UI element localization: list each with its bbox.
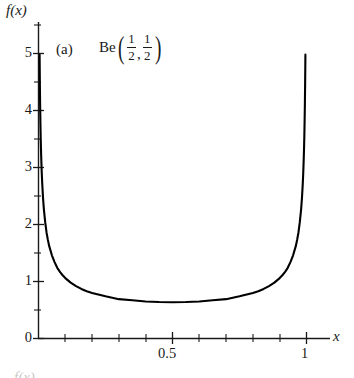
paren-close-glyph: ) (155, 35, 161, 60)
fraction-one-half-second: 1 2 (143, 32, 152, 63)
y-tick-label-0: 0 (12, 330, 32, 345)
y-tick-label-5: 5 (12, 45, 32, 60)
data-series-curve (40, 55, 306, 303)
next-panel-partial-label: f(x) (14, 370, 35, 378)
comma-separator: , (137, 47, 141, 63)
y-tick-label-1: 1 (12, 273, 32, 288)
x-tick-label-0.5: 0.5 (158, 346, 176, 361)
panel-label: (a) (56, 42, 73, 57)
y-tick-label-3: 3 (12, 159, 32, 174)
x-axis-label: x (333, 329, 340, 344)
fraction-numerator: 1 (143, 32, 152, 46)
figure-panel: f(x) x 5 4 3 2 1 0 0.5 1 (a) Be ( 1 2 , … (0, 0, 354, 378)
plot-canvas (0, 0, 354, 378)
y-tick-label-4: 4 (12, 102, 32, 117)
fraction-one-half-first: 1 2 (127, 32, 136, 63)
x-tick-label-1: 1 (301, 346, 308, 361)
fraction-numerator: 1 (127, 32, 136, 46)
distribution-label: Be ( 1 2 , 1 2 ) (99, 32, 163, 63)
fraction-denominator: 2 (127, 49, 136, 63)
y-tick-label-2: 2 (12, 216, 32, 231)
distribution-name: Be (99, 40, 116, 55)
paren-open-glyph: ( (118, 35, 124, 60)
fraction-denominator: 2 (143, 49, 152, 63)
y-axis-label: f(x) (6, 3, 27, 18)
